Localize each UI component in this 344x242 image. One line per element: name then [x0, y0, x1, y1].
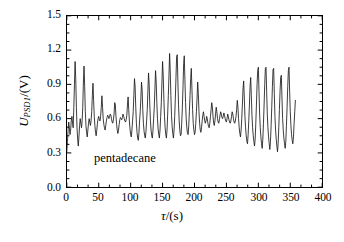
x-axis-tick-labels: 0 50 100 150 200 250 300 350 400 [0, 191, 344, 207]
data-series-line [67, 54, 296, 152]
x-tick-label: 300 [251, 191, 268, 204]
series-annotation-label: pentadecane [94, 152, 156, 165]
y-axis-title-symbol: U [16, 117, 31, 126]
x-axis-title: τ/(s) [0, 208, 344, 224]
x-tick-label: 350 [283, 191, 300, 204]
y-axis-title: UPSD1/(V) [16, 21, 32, 181]
x-tick-label: 200 [186, 191, 203, 204]
x-tick-label: 50 [92, 191, 103, 204]
x-tick-label: 0 [63, 191, 69, 204]
chart-figure: 1.5 1.2 0.9 0.6 0.3 0.0 pentadecane 0 50… [0, 0, 344, 242]
y-axis-title-unit: /(V) [16, 75, 31, 97]
x-tick-label: 100 [122, 191, 139, 204]
x-tick-label: 150 [154, 191, 171, 204]
x-axis-title-unit: /(s) [166, 208, 183, 223]
x-tick-label: 250 [218, 191, 235, 204]
y-axis-title-subscript: PSD1 [22, 97, 32, 118]
x-tick-label: 400 [315, 191, 332, 204]
